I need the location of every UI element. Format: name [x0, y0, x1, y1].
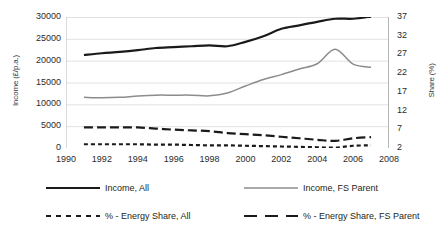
series-line [84, 49, 371, 97]
x-tick: 2006 [333, 154, 373, 164]
y-tick-right: 12 [397, 105, 423, 115]
plot-svg [66, 17, 389, 148]
chart-container: Income (£/p.a.) Share (%) 05000100001500… [0, 0, 441, 237]
y-tick-left: 10000 [0, 98, 61, 108]
legend-line-icon [242, 183, 300, 193]
x-tick: 2004 [297, 154, 337, 164]
x-tick: 1990 [46, 154, 86, 164]
x-tick: 1994 [118, 154, 158, 164]
legend-label: Income, All [105, 183, 149, 193]
y-tick-right: 37 [397, 11, 423, 21]
y-axis-right-title: Share (%) [427, 38, 436, 124]
legend-item[interactable]: % - Energy Share, All [44, 211, 191, 221]
legend-item[interactable]: Income, FS Parent [242, 183, 378, 193]
legend-label: % - Energy Share, FS Parent [303, 211, 420, 221]
legend-line-icon [44, 183, 102, 193]
x-tick: 2000 [225, 154, 265, 164]
series-line [84, 144, 371, 147]
x-tick: 1998 [190, 154, 230, 164]
legend-line-icon [242, 211, 300, 221]
chart-legend: Income, AllIncome, FS Parent% - Energy S… [44, 183, 404, 233]
y-tick-right: 7 [397, 123, 423, 133]
plot-area [66, 17, 389, 148]
y-tick-right: 32 [397, 30, 423, 40]
y-tick-right: 27 [397, 48, 423, 58]
x-tick: 2008 [369, 154, 409, 164]
x-tick: 2002 [261, 154, 301, 164]
series-line [84, 127, 371, 141]
y-tick-left: 0 [0, 142, 61, 152]
y-tick-right: 22 [397, 67, 423, 77]
series-lines [84, 17, 371, 148]
y-tick-right: 17 [397, 86, 423, 96]
legend-line-icon [44, 211, 102, 221]
legend-item[interactable]: Income, All [44, 183, 149, 193]
y-tick-left: 20000 [0, 55, 61, 65]
x-tick: 1996 [154, 154, 194, 164]
legend-label: Income, FS Parent [303, 183, 378, 193]
y-tick-left: 30000 [0, 11, 61, 21]
x-tick: 1992 [82, 154, 122, 164]
y-tick-right: 2 [397, 142, 423, 152]
legend-item[interactable]: % - Energy Share, FS Parent [242, 211, 420, 221]
series-line [84, 17, 371, 55]
y-tick-left: 25000 [0, 33, 61, 43]
y-tick-left: 5000 [0, 120, 61, 130]
y-tick-left: 15000 [0, 77, 61, 87]
legend-label: % - Energy Share, All [105, 211, 191, 221]
